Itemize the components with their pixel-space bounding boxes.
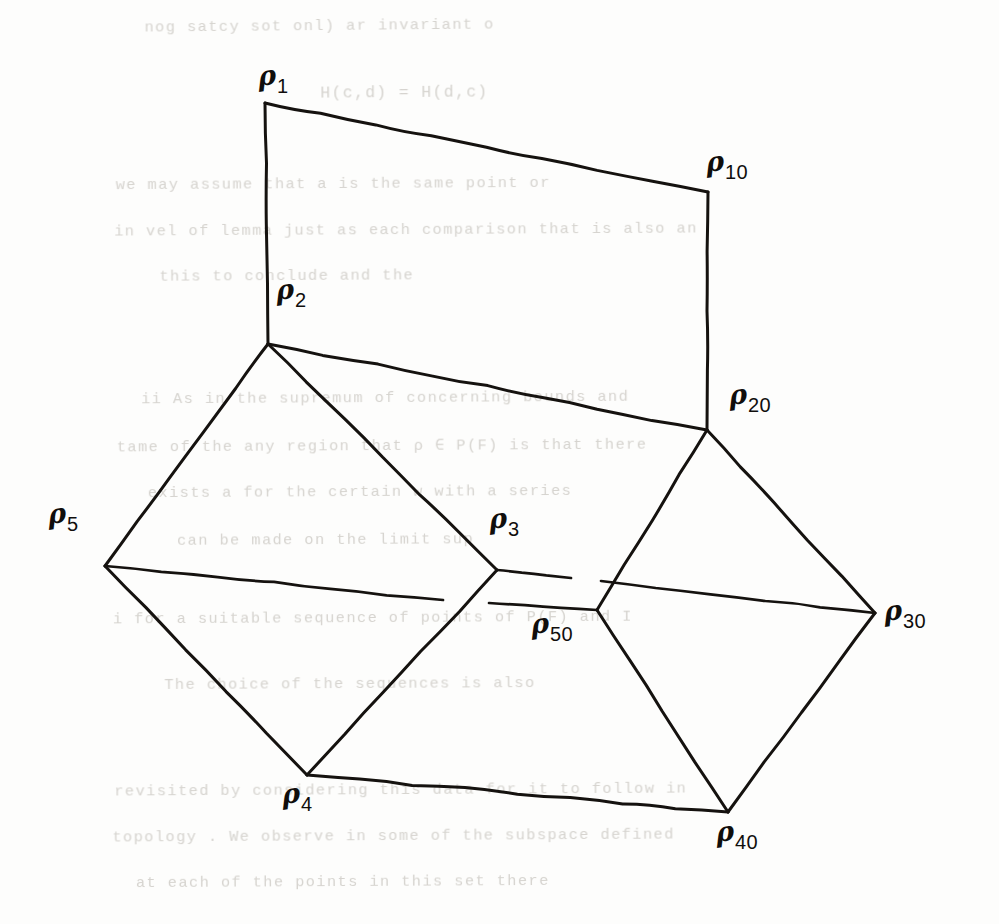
rho-glyph: ρ	[728, 380, 748, 410]
rho-glyph: ρ	[530, 609, 550, 639]
rho-glyph: ρ	[705, 147, 725, 177]
vertex-subscript: 1	[277, 76, 289, 96]
vertex-subscript: 5	[67, 514, 79, 534]
rho-glyph: ρ	[715, 817, 735, 847]
rho-glyph: ρ	[257, 61, 277, 91]
vertex-label-layer: ρ1ρ10ρ2ρ20ρ5ρ3ρ30ρ50ρ4ρ40	[0, 0, 999, 924]
rho-glyph: ρ	[47, 499, 67, 529]
vertex-subscript: 40	[735, 832, 758, 852]
vertex-subscript: 4	[301, 794, 313, 814]
vertex-label-p1: ρ1	[258, 62, 289, 89]
rho-glyph: ρ	[275, 275, 295, 305]
rho-glyph: ρ	[883, 596, 903, 626]
vertex-label-p20: ρ20	[729, 381, 771, 408]
vertex-label-p40: ρ40	[716, 818, 758, 845]
vertex-label-p10: ρ10	[706, 148, 748, 175]
vertex-subscript: 20	[748, 395, 771, 415]
rho-glyph: ρ	[488, 504, 508, 534]
vertex-label-p50: ρ50	[531, 610, 573, 637]
vertex-label-p2: ρ2	[276, 276, 307, 303]
vertex-subscript: 10	[725, 162, 748, 182]
vertex-label-p3: ρ3	[489, 505, 520, 532]
vertex-label-p5: ρ5	[48, 500, 79, 527]
figure-page: nog satcy sot onl) ar invariant oH(c,d) …	[0, 0, 999, 924]
vertex-label-p4: ρ4	[282, 780, 313, 807]
vertex-subscript: 2	[295, 290, 307, 310]
vertex-subscript: 30	[903, 611, 926, 631]
vertex-label-p30: ρ30	[884, 597, 926, 624]
rho-glyph: ρ	[281, 779, 301, 809]
vertex-subscript: 3	[508, 519, 520, 539]
vertex-subscript: 50	[550, 624, 573, 644]
